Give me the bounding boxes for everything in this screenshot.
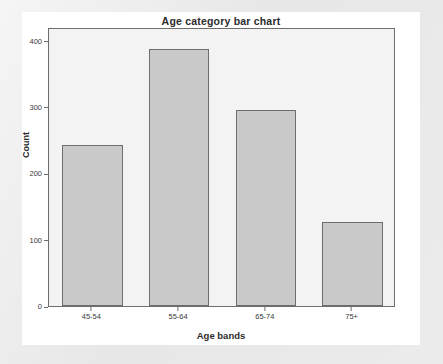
x-tick-label: 75+ bbox=[345, 313, 358, 321]
y-tick-label: 0 bbox=[38, 303, 42, 311]
chart-card: Age category bar chart 0100200300400 Cou… bbox=[22, 12, 420, 345]
x-tick-75+: 75+ bbox=[345, 307, 358, 321]
x-tick-65-74: 65-74 bbox=[255, 307, 274, 321]
x-axis-title: Age bands bbox=[22, 330, 420, 341]
bars-container bbox=[49, 29, 394, 306]
x-tick-mark bbox=[351, 307, 352, 311]
x-tick-label: 65-74 bbox=[255, 313, 274, 321]
x-axis: 45-5455-6465-7475+ bbox=[48, 307, 395, 329]
x-tick-45-54: 45-54 bbox=[82, 307, 101, 321]
x-tick-mark bbox=[178, 307, 179, 311]
y-tick-label: 300 bbox=[29, 103, 42, 111]
plot-area bbox=[48, 28, 395, 307]
x-tick-mark bbox=[91, 307, 92, 311]
x-tick-55-64: 55-64 bbox=[169, 307, 188, 321]
y-tick-label: 400 bbox=[29, 37, 42, 45]
x-tick-label: 45-54 bbox=[82, 313, 101, 321]
y-axis-title: Count bbox=[21, 132, 31, 158]
x-tick-mark bbox=[264, 307, 265, 311]
bar-75+ bbox=[322, 222, 383, 306]
y-axis: 0100200300400 bbox=[22, 28, 48, 307]
bar-45-54 bbox=[62, 145, 123, 306]
bar-55-64 bbox=[149, 49, 210, 306]
chart-title: Age category bar chart bbox=[22, 15, 420, 27]
x-tick-label: 55-64 bbox=[169, 313, 188, 321]
bar-65-74 bbox=[236, 110, 297, 306]
y-tick-label: 200 bbox=[29, 170, 42, 178]
y-tick-label: 100 bbox=[29, 236, 42, 244]
